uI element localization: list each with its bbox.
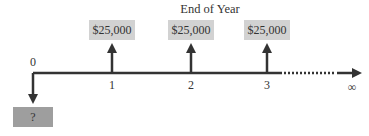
unknown-value-label: ? [30, 110, 35, 124]
cash-flow-amount: $25,000 [248, 23, 287, 37]
cash-flow-amount: $25,000 [172, 23, 211, 37]
cash-flow-period-2: $25,000 2 [168, 20, 214, 92]
period-0-label: 0 [30, 55, 36, 69]
period-label: 3 [264, 78, 270, 92]
down-arrow-icon [28, 94, 38, 104]
up-arrow-icon [186, 43, 196, 53]
cash-flow-period-1: $25,000 1 [89, 20, 135, 92]
cash-flow-timeline-diagram: End of Year 0 ∞ $25,000 1 $25,000 2 $25,… [0, 0, 369, 136]
period-label: 1 [109, 78, 115, 92]
up-arrow-icon [107, 43, 117, 53]
infinity-label: ∞ [348, 80, 357, 94]
cash-flow-amount: $25,000 [93, 23, 132, 37]
diagram-title: End of Year [180, 2, 240, 16]
present-value-outflow: ? [13, 73, 53, 127]
up-arrow-icon [262, 43, 272, 53]
timeline-end-arrow-icon [352, 68, 362, 78]
period-label: 2 [188, 78, 194, 92]
cash-flow-period-3: $25,000 3 [244, 20, 290, 92]
